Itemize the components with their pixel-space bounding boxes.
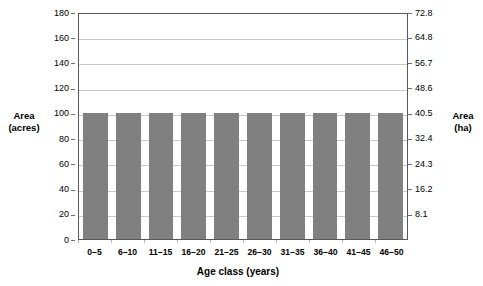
x-tickmark [243,240,244,243]
bar-slot [210,14,243,239]
bar-slot [177,14,210,239]
y-tickmark-right [408,88,412,89]
y-tickmark-right [408,164,412,165]
y-tickmark-left [71,164,75,165]
x-tick-label: 36–40 [309,247,342,257]
x-tickmark-slot [342,240,375,244]
bar[interactable] [345,113,370,239]
bar[interactable] [181,113,206,239]
y-axis-title-left-line1: Area [2,110,46,122]
x-tick-label: 16–20 [177,247,210,257]
x-tickmark [144,240,145,243]
y-tickmark-left [71,114,75,115]
x-tickmark-slot [309,240,342,244]
x-axis-tickmarks [78,240,408,244]
bar-slot [112,14,145,239]
plot-area [78,13,408,240]
y-tick-label-right: 24.3 [415,160,433,169]
x-tick-label: 26–30 [243,247,276,257]
bar-slot [145,14,178,239]
x-tickmark [78,240,79,243]
y-tickmark-right [408,63,412,64]
y-axis-title-right-line1: Area [443,110,483,122]
bar[interactable] [149,113,174,239]
x-tick-label: 6–10 [111,247,144,257]
x-tick-label: 46–50 [375,247,408,257]
x-tickmark [111,240,112,243]
x-tickmark-slot [144,240,177,244]
x-tick-label: 41–45 [342,247,375,257]
y-tickmark-left [71,190,75,191]
y-tick-label-right: 48.6 [415,84,433,93]
x-tickmark-slot [177,240,210,244]
y-tick-label-right: 16.2 [415,185,433,194]
y-tick-label-right: 32.4 [415,134,433,143]
y-tick-label-right: 56.7 [415,59,433,68]
bar-slot [243,14,276,239]
bar-slot [341,14,374,239]
x-tickmark [210,240,211,243]
x-tickmark [375,240,376,243]
x-tickmark [276,240,277,243]
x-tickmark-slot [243,240,276,244]
bar[interactable] [378,113,403,239]
y-tick-label-left: 60 [59,160,69,169]
y-tickmark-left [71,215,75,216]
x-tickmark-slot [276,240,309,244]
y-tickmark-right [408,38,412,39]
y-tick-label-left: 20 [59,210,69,219]
y-axis-title-right-line2: (ha) [443,122,483,134]
y-tickmark-right [408,114,412,115]
x-tickmark [177,240,178,243]
y-tick-label-left: 100 [54,109,69,118]
bar[interactable] [313,113,338,239]
y-tickmark-left [71,89,75,90]
bar-slot [79,14,112,239]
y-tickmark-left [71,139,75,140]
x-tickmark-slot [375,240,408,244]
y-tick-label-right: 64.8 [415,33,433,42]
bar-slot [276,14,309,239]
y-tickmark-right [408,215,412,216]
y-tickmark-right [408,189,412,190]
x-tick-label: 21–25 [210,247,243,257]
x-tick-label: 31–35 [276,247,309,257]
bar-chart-figure: Area (acres) Area (ha) 18016014012010080… [0,0,483,286]
y-tickmark-left [71,38,75,39]
bar[interactable] [116,113,141,239]
x-tickmark-slot [210,240,243,244]
x-axis-title: Age class (years) [78,266,398,278]
y-tick-label-left: 120 [54,84,69,93]
y-tickmark-right [408,13,412,14]
y-tickmark-left [71,63,75,64]
bar[interactable] [214,113,239,239]
y-tick-label-left: 160 [54,34,69,43]
y-tickmark-left [71,240,75,241]
y-tick-label-right: 8.1 [415,210,428,219]
y-axis-title-left: Area (acres) [2,110,46,134]
bar[interactable] [83,113,108,239]
x-axis-ticks: 0–56–1011–1516–2021–2526–3031–3536–4041–… [78,247,408,257]
y-tickmark-left [71,13,75,14]
y-tick-label-left: 40 [59,185,69,194]
bar[interactable] [280,113,305,239]
y-axis-title-left-line2: (acres) [2,122,46,134]
x-tickmark [342,240,343,243]
y-tick-label-right: 72.8 [415,9,433,18]
y-tick-label-left: 80 [59,135,69,144]
y-tick-label-left: 180 [54,9,69,18]
y-tick-label-left: 140 [54,59,69,68]
x-tick-label: 11–15 [144,247,177,257]
y-axis-title-right: Area (ha) [443,110,483,134]
bar-slot [374,14,407,239]
x-tickmark [309,240,310,243]
x-tickmark-slot [111,240,144,244]
x-tickmark-slot [78,240,111,244]
y-tick-label-left: 0 [64,236,69,245]
y-tickmark-right [408,139,412,140]
bar[interactable] [247,113,272,239]
x-tick-label: 0–5 [78,247,111,257]
y-tick-label-right: 40.5 [415,109,433,118]
bar-series [79,14,407,239]
bar-slot [309,14,342,239]
